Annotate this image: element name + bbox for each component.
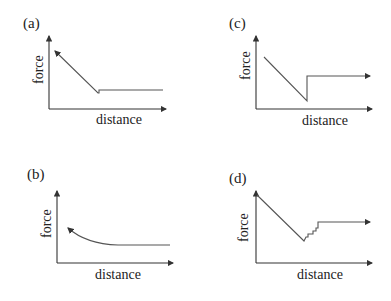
panel-b: (b) force distance (27, 166, 173, 282)
panel-label: (d) (229, 170, 247, 187)
x-axis-label: distance (297, 267, 343, 282)
force-curve (264, 57, 370, 101)
x-axis-label: distance (95, 267, 141, 282)
y-axis-label: force (31, 55, 46, 84)
panel-label: (c) (229, 15, 246, 32)
panel-a: (a) force distance (23, 15, 166, 127)
x-axis-label: distance (302, 113, 348, 128)
panel-c: (c) force distance (229, 15, 372, 128)
force-curve (257, 195, 370, 241)
force-curve (55, 51, 163, 93)
y-axis-label: force (39, 209, 54, 238)
x-axis-label: distance (96, 112, 142, 127)
panel-label: (a) (23, 15, 40, 32)
force-curve (68, 228, 170, 245)
y-axis-label: force (238, 51, 253, 80)
y-axis-label: force (236, 213, 251, 242)
figure: (a) force distance (c) force distance (b… (0, 0, 391, 301)
panel-d: (d) force distance (229, 170, 372, 282)
panel-label: (b) (27, 166, 45, 183)
